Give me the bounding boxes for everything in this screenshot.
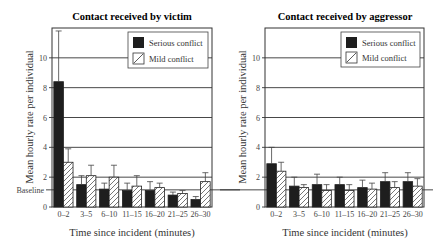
legend-label-serious: Serious conflict bbox=[149, 38, 203, 48]
y-tick-label: 4 bbox=[256, 143, 260, 152]
y-tick-label: 4 bbox=[43, 143, 47, 152]
bar-serious bbox=[380, 182, 390, 207]
y-tick-label: 2 bbox=[256, 173, 260, 182]
bar-serious bbox=[168, 195, 178, 207]
legend: Serious conflict Mild conflict bbox=[128, 32, 208, 68]
y-tick-label: 6 bbox=[256, 114, 260, 123]
legend-swatch-serious bbox=[346, 37, 357, 48]
bar-serious bbox=[403, 182, 413, 207]
y-tick-label: 10 bbox=[252, 54, 260, 63]
x-tick-label: 16–20 bbox=[357, 210, 377, 219]
chart-victim: Contact received by victim Mean hourly r… bbox=[16, 11, 240, 239]
y-tick-label: 0 bbox=[43, 203, 47, 212]
chart-aggressor: Contact received by aggressor Mean hourl… bbox=[220, 11, 433, 239]
bar-serious bbox=[290, 186, 300, 207]
legend-label-mild: Mild conflict bbox=[149, 54, 194, 64]
bar-mild bbox=[155, 188, 165, 207]
bar-serious bbox=[191, 200, 201, 207]
y-tick-label: 2 bbox=[43, 173, 47, 182]
x-tick-label: 21–25 bbox=[380, 210, 400, 219]
x-tick-label: 21–25 bbox=[168, 210, 188, 219]
x-tick-label: 11–15 bbox=[122, 210, 142, 219]
bar-mild bbox=[63, 162, 73, 207]
bar-serious bbox=[312, 185, 322, 207]
bar-serious bbox=[145, 191, 155, 207]
legend-label-serious: Serious conflict bbox=[362, 38, 416, 48]
bar-mild bbox=[413, 186, 423, 207]
baseline-label: Baseline bbox=[16, 186, 44, 195]
bar-mild bbox=[109, 177, 119, 207]
y-tick-label: 8 bbox=[43, 84, 47, 93]
bar-serious bbox=[54, 82, 64, 207]
bar-mild bbox=[178, 194, 188, 207]
x-tick-label: 0–2 bbox=[270, 210, 282, 219]
x-tick-label: 6–10 bbox=[314, 210, 330, 219]
x-tick-label: 11–15 bbox=[335, 210, 355, 219]
x-tick-label: 6–10 bbox=[101, 210, 117, 219]
bar-mild bbox=[299, 188, 309, 207]
legend: Serious conflict Mild conflict bbox=[341, 32, 420, 67]
x-tick-label: 26–30 bbox=[191, 210, 211, 219]
bar-mild bbox=[201, 182, 211, 207]
chart-title: Contact received by aggressor bbox=[278, 11, 413, 22]
x-axis-label: Time since incident (minutes) bbox=[282, 227, 408, 239]
bar-serious bbox=[267, 164, 277, 207]
x-tick-label: 26–30 bbox=[403, 210, 423, 219]
legend-swatch-serious bbox=[133, 37, 144, 48]
bar-mild bbox=[322, 191, 332, 207]
bar-mild bbox=[390, 188, 400, 207]
bar-serious bbox=[335, 185, 345, 207]
legend-label-mild: Mild conflict bbox=[362, 53, 407, 63]
x-tick-label: 3–5 bbox=[293, 210, 305, 219]
y-axis-label: Mean hourly rate per individual bbox=[24, 50, 35, 184]
x-tick-label: 16–20 bbox=[145, 210, 165, 219]
figure: Contact received by victim Mean hourly r… bbox=[0, 0, 440, 241]
bar-mild bbox=[276, 171, 286, 207]
bar-serious bbox=[358, 188, 368, 207]
bar-mild bbox=[86, 176, 96, 207]
bar-serious bbox=[122, 191, 132, 207]
x-tick-label: 0–2 bbox=[57, 210, 69, 219]
y-axis-label: Mean hourly rate per individual bbox=[237, 50, 248, 184]
y-tick-label: 8 bbox=[256, 84, 260, 93]
x-axis-label: Time since incident (minutes) bbox=[69, 227, 195, 239]
y-tick-label: 0 bbox=[256, 203, 260, 212]
bar-serious bbox=[77, 185, 87, 207]
bar-mild bbox=[345, 191, 355, 207]
bar-mild bbox=[367, 189, 377, 207]
bar-mild bbox=[132, 186, 142, 207]
y-tick-label: 6 bbox=[43, 114, 47, 123]
bar-serious bbox=[100, 189, 110, 207]
y-tick-label: 10 bbox=[39, 54, 47, 63]
chart-title: Contact received by victim bbox=[72, 11, 192, 22]
x-tick-label: 3–5 bbox=[80, 210, 92, 219]
